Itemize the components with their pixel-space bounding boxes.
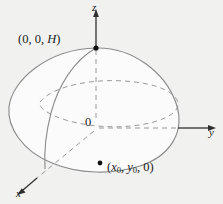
y-axis-label: y — [209, 127, 214, 138]
apex-label-variable: H — [47, 32, 56, 46]
figure-canvas: z y x 0 (0, 0, H) (x0, y0, 0) — [0, 0, 223, 204]
apex-label-suffix: ) — [56, 32, 60, 46]
x-axis-line — [23, 178, 37, 190]
base-point-dot — [98, 161, 103, 166]
origin-label: 0 — [85, 116, 91, 129]
base-point-label: (x0, y0, 0) — [107, 161, 154, 174]
z-axis-label: z — [92, 2, 96, 13]
apex-point-dot — [93, 45, 98, 50]
x-axis-label: x — [16, 188, 21, 199]
apex-point-label: (0, 0, H) — [18, 33, 60, 46]
base-label-separator-2: , 0) — [137, 160, 154, 174]
apex-label-prefix: (0, 0, — [18, 32, 47, 46]
